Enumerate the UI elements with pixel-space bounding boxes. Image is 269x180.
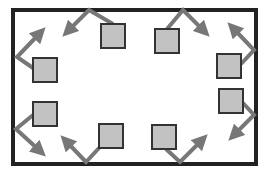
gray-square [33,102,57,126]
gray-square [219,89,243,113]
gray-square [152,125,176,149]
item-right-lower [219,89,254,135]
item-right-upper [217,28,254,78]
gray-square [33,58,57,82]
item-left-upper [17,33,57,82]
gray-square [101,24,125,48]
item-bottom-left [66,124,123,162]
diagram-canvas [0,0,269,180]
bounce-arrow-icon [66,141,99,162]
items-group [16,10,254,162]
item-bottom-right [152,125,202,162]
item-left-lower [16,102,57,151]
gray-square [99,124,123,148]
gray-square [155,29,179,53]
frame-rectangle [13,10,256,164]
gray-square [217,54,241,78]
bounce-arrow-icon [167,10,204,31]
item-top-left [68,10,125,48]
item-top-right [155,10,204,53]
